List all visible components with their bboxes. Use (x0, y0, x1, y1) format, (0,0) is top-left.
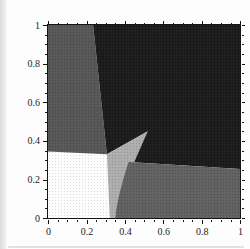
x-axis-tick-label: 0.4 (119, 227, 132, 237)
y-axis-tick-label: 0.6 (28, 98, 41, 108)
x-top-minor-tick (96, 23, 97, 25)
x-minor-tick (211, 220, 212, 222)
y-right-tick (242, 141, 245, 142)
x-major-tick (87, 220, 88, 224)
x-minor-tick (144, 220, 145, 222)
x-top-minor-tick (154, 23, 155, 25)
x-minor-tick (183, 220, 184, 222)
x-top-minor-tick (221, 23, 222, 25)
y-major-tick (43, 141, 47, 142)
y-minor-tick (45, 35, 47, 36)
x-top-minor-tick (183, 23, 184, 25)
y-minor-tick (45, 189, 47, 190)
x-major-tick (48, 220, 49, 224)
y-minor-tick (45, 83, 47, 84)
y-right-minor-tick (242, 131, 244, 132)
x-top-tick (125, 21, 126, 24)
y-minor-tick (45, 160, 47, 161)
y-right-minor-tick (242, 208, 244, 209)
y-minor-tick (45, 54, 47, 55)
x-axis-tick-label: 1 (238, 227, 243, 237)
plot-frame (47, 24, 241, 219)
y-right-minor-tick (242, 122, 244, 123)
x-top-minor-tick (144, 23, 145, 25)
x-top-minor-tick (115, 23, 116, 25)
y-right-minor-tick (242, 83, 244, 84)
x-top-tick (202, 21, 203, 24)
x-minor-tick (58, 220, 59, 222)
x-top-minor-tick (106, 23, 107, 25)
x-minor-tick (192, 220, 193, 222)
y-right-tick (242, 25, 245, 26)
x-axis-tick-label: 0.2 (81, 227, 94, 237)
x-minor-tick (231, 220, 232, 222)
x-top-minor-tick (58, 23, 59, 25)
region-plot-canvas (48, 25, 240, 218)
y-axis-tick-label: 1 (35, 21, 40, 31)
x-axis-tick-label: 0.8 (196, 227, 209, 237)
x-minor-tick (77, 220, 78, 222)
x-top-minor-tick (211, 23, 212, 25)
x-major-tick (240, 220, 241, 224)
y-axis-tick-label: 0.4 (28, 136, 41, 146)
x-major-tick (202, 220, 203, 224)
x-top-tick (163, 21, 164, 24)
y-minor-tick (45, 151, 47, 152)
x-top-minor-tick (135, 23, 136, 25)
y-minor-tick (45, 170, 47, 171)
y-right-minor-tick (242, 35, 244, 36)
x-minor-tick (106, 220, 107, 222)
y-axis-tick-label: 0.2 (28, 175, 41, 185)
y-right-minor-tick (242, 151, 244, 152)
x-top-minor-tick (67, 23, 68, 25)
x-minor-tick (154, 220, 155, 222)
x-top-minor-tick (192, 23, 193, 25)
y-right-minor-tick (242, 93, 244, 94)
y-axis-tick-label: 0 (35, 214, 40, 224)
y-axis-tick-label: 0.8 (28, 59, 41, 69)
upper-right-black-region (93, 25, 240, 169)
y-right-minor-tick (242, 44, 244, 45)
y-right-minor-tick (242, 73, 244, 74)
bottom-right-gray-band (115, 162, 240, 218)
y-right-minor-tick (242, 170, 244, 171)
y-minor-tick (45, 199, 47, 200)
y-right-tick (242, 102, 245, 103)
y-major-tick (43, 102, 47, 103)
x-minor-tick (115, 220, 116, 222)
y-minor-tick (45, 208, 47, 209)
y-minor-tick (45, 112, 47, 113)
y-minor-tick (45, 73, 47, 74)
x-top-minor-tick (173, 23, 174, 25)
y-right-minor-tick (242, 112, 244, 113)
x-major-tick (163, 220, 164, 224)
y-right-tick (242, 64, 245, 65)
x-top-tick (240, 21, 241, 24)
y-right-minor-tick (242, 199, 244, 200)
scan-artifact-bottom-smudge (8, 246, 244, 248)
x-top-tick (48, 21, 49, 24)
y-right-minor-tick (242, 54, 244, 55)
y-major-tick (43, 218, 47, 219)
x-axis-tick-label: 0 (46, 227, 51, 237)
y-right-tick (242, 218, 245, 219)
x-minor-tick (67, 220, 68, 222)
y-right-minor-tick (242, 189, 244, 190)
x-major-tick (125, 220, 126, 224)
x-minor-tick (173, 220, 174, 222)
scan-artifact-left-strip (0, 0, 7, 249)
y-major-tick (43, 180, 47, 181)
y-right-minor-tick (242, 160, 244, 161)
x-top-minor-tick (77, 23, 78, 25)
x-minor-tick (96, 220, 97, 222)
x-minor-tick (135, 220, 136, 222)
x-top-tick (87, 21, 88, 24)
x-top-minor-tick (231, 23, 232, 25)
y-right-tick (242, 180, 245, 181)
y-minor-tick (45, 93, 47, 94)
y-major-tick (43, 25, 47, 26)
y-major-tick (43, 64, 47, 65)
x-axis-tick-label: 0.6 (158, 227, 171, 237)
y-minor-tick (45, 122, 47, 123)
y-minor-tick (45, 44, 47, 45)
